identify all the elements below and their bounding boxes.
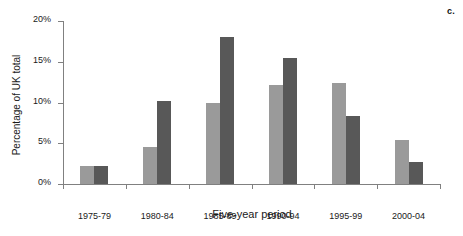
- y-axis-tick-label: 10%: [33, 96, 51, 106]
- bar: [143, 147, 157, 184]
- bar-group: [395, 21, 423, 184]
- bar: [220, 37, 234, 185]
- bar: [346, 116, 360, 184]
- y-axis-tick: 20%: [58, 21, 63, 22]
- bar: [80, 166, 94, 184]
- y-axis-tick: 10%: [58, 103, 63, 104]
- bar: [269, 85, 283, 184]
- x-axis-tick: [377, 184, 378, 189]
- x-axis-title: Five-year period: [63, 208, 441, 220]
- y-axis-tick-label: 5%: [38, 136, 51, 146]
- plot-area: 0%5%10%15%20%1975-791980-841985-891990-9…: [63, 21, 440, 184]
- x-axis-tick: [63, 184, 64, 189]
- y-axis-tick-label: 20%: [33, 14, 51, 24]
- y-axis-title: Percentage of UK total: [11, 20, 25, 190]
- bar: [94, 166, 108, 184]
- bar: [206, 103, 220, 185]
- bar: [332, 83, 346, 184]
- bar: [157, 101, 171, 184]
- x-axis-tick: [314, 184, 315, 189]
- bar-chart-figure: c. Percentage of UK total 0%5%10%15%20%1…: [0, 0, 463, 236]
- panel-label: c.: [447, 6, 455, 16]
- bar-group: [206, 21, 234, 184]
- x-axis-tick: [189, 184, 190, 189]
- y-axis-tick: 15%: [58, 62, 63, 63]
- bar-group: [332, 21, 360, 184]
- bar: [395, 140, 409, 184]
- bar-group: [143, 21, 171, 184]
- bar-group: [269, 21, 297, 184]
- y-axis-tick-label: 15%: [33, 55, 51, 65]
- bar: [409, 162, 423, 184]
- x-axis-tick: [440, 184, 441, 189]
- bar-group: [80, 21, 108, 184]
- x-axis-tick: [126, 184, 127, 189]
- y-axis-tick: 5%: [58, 143, 63, 144]
- y-axis-tick-label: 0%: [38, 177, 51, 187]
- x-axis-tick: [252, 184, 253, 189]
- bar: [283, 58, 297, 184]
